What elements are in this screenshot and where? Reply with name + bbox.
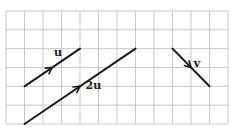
- vector-label: 2u: [86, 79, 102, 92]
- vector-u: u: [25, 46, 81, 86]
- vector-label: v: [193, 57, 201, 70]
- vector-label: u: [54, 46, 62, 59]
- vector-grid-diagram: u2uv: [0, 0, 241, 133]
